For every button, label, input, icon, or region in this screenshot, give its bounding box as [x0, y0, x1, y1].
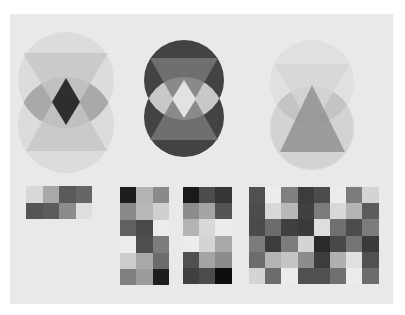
grid-cell: [26, 186, 43, 203]
grid-cell: [298, 268, 314, 284]
grid-cell: [76, 203, 93, 220]
figure-light-circles-dark-diamond: [18, 32, 114, 173]
grid-cell: [330, 219, 346, 235]
grid-cell: [136, 236, 152, 252]
grid-cell: [199, 203, 215, 219]
grid-cell: [281, 203, 297, 219]
grid-cell: [314, 203, 330, 219]
grid-cell: [183, 268, 199, 284]
grid-cell: [314, 187, 330, 203]
grid-cell: [43, 203, 60, 220]
grid-cell: [43, 186, 60, 203]
grid-cell: [314, 252, 330, 268]
grid-cell: [249, 187, 265, 203]
grid-cell: [346, 203, 362, 219]
grid-cell: [298, 236, 314, 252]
grid-cell: [120, 187, 136, 203]
grid-cell: [298, 187, 314, 203]
grid-cell: [346, 219, 362, 235]
grid-cell: [281, 268, 297, 284]
grid-cell: [136, 253, 152, 269]
grid-cell: [346, 252, 362, 268]
grid-cell: [362, 203, 378, 219]
grid-cell: [314, 219, 330, 235]
grid-cell: [136, 203, 152, 219]
grid-3x6-b: [183, 187, 232, 284]
grid-cell: [330, 252, 346, 268]
figure-single-triangle: [270, 40, 354, 170]
grid-cell: [281, 236, 297, 252]
grid-cell: [215, 219, 231, 235]
grid-cell: [330, 187, 346, 203]
grid-cell: [26, 203, 43, 220]
grid-cell: [281, 219, 297, 235]
grid-cell: [215, 236, 231, 252]
grid-cell: [362, 252, 378, 268]
grid-cell: [265, 187, 281, 203]
grid-cell: [199, 187, 215, 203]
grid-cell: [199, 252, 215, 268]
grid-cell: [120, 203, 136, 219]
grid-cell: [249, 268, 265, 284]
grid-cell: [346, 268, 362, 284]
grid-cell: [183, 252, 199, 268]
grid-cell: [215, 252, 231, 268]
grid-cell: [120, 253, 136, 269]
grid-cell: [199, 219, 215, 235]
grid-cell: [153, 253, 169, 269]
grid-cell: [136, 269, 152, 285]
grid-cell: [199, 236, 215, 252]
grid-3x6-a: [120, 187, 169, 285]
grid-cell: [314, 236, 330, 252]
grid-8x6: [249, 187, 379, 284]
grid-cell: [281, 187, 297, 203]
grid-cell: [215, 268, 231, 284]
grid-cell: [183, 203, 199, 219]
grid-cell: [362, 236, 378, 252]
grid-cell: [183, 187, 199, 203]
grid-cell: [153, 187, 169, 203]
grid-cell: [249, 236, 265, 252]
grid-cell: [215, 203, 231, 219]
grid-cell: [183, 219, 199, 235]
grid-cell: [265, 219, 281, 235]
grid-cell: [59, 203, 76, 220]
grid-cell: [362, 268, 378, 284]
grid-cell: [120, 220, 136, 236]
grid-cell: [249, 203, 265, 219]
grid-cell: [183, 236, 199, 252]
grid-cell: [215, 187, 231, 203]
grid-cell: [153, 220, 169, 236]
grid-cell: [346, 236, 362, 252]
grid-cell: [281, 252, 297, 268]
grid-cell: [298, 252, 314, 268]
grid-cell: [153, 203, 169, 219]
grid-cell: [330, 268, 346, 284]
grid-cell: [249, 219, 265, 235]
grid-cell: [199, 268, 215, 284]
figure-dark-circles-light-diamond: [144, 40, 224, 157]
grid-cell: [265, 268, 281, 284]
grid-cell: [314, 268, 330, 284]
grid-cell: [265, 203, 281, 219]
grid-cell: [76, 186, 93, 203]
grid-cell: [346, 187, 362, 203]
grid-cell: [136, 187, 152, 203]
grid-4x2: [26, 186, 92, 219]
grid-cell: [298, 219, 314, 235]
grid-cell: [249, 252, 265, 268]
grid-cell: [59, 186, 76, 203]
grid-cell: [330, 203, 346, 219]
grid-cell: [330, 236, 346, 252]
grid-cell: [120, 269, 136, 285]
grid-cell: [298, 203, 314, 219]
grid-cell: [362, 187, 378, 203]
grid-cell: [120, 236, 136, 252]
grid-cell: [362, 219, 378, 235]
grid-cell: [265, 252, 281, 268]
grid-cell: [153, 269, 169, 285]
grid-cell: [265, 236, 281, 252]
grid-cell: [153, 236, 169, 252]
grid-cell: [136, 220, 152, 236]
